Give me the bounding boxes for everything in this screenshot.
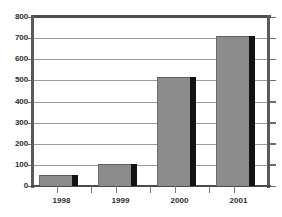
x-axis-tick-label: 1999 <box>97 196 145 205</box>
right-axis-tick <box>269 59 276 61</box>
bar-2001 <box>216 36 255 186</box>
y-axis-spine <box>31 15 34 188</box>
bar-1999 <box>98 164 137 186</box>
y-axis-labels: 8007006005004003002001000 <box>0 0 28 217</box>
x-axis-tick <box>234 186 235 193</box>
x-axis-tick-label: 2000 <box>156 196 204 205</box>
y-axis-tick-label: 0 <box>2 182 28 190</box>
y-axis-tick-label: 800 <box>2 13 28 21</box>
right-axis-tick <box>269 143 276 145</box>
right-axis-tick <box>269 122 276 124</box>
bar-shadow <box>249 36 255 186</box>
x-axis-boundary-tick <box>91 186 92 193</box>
y-axis-tick-label: 300 <box>2 119 28 127</box>
x-axis-tick-label: 2001 <box>215 196 263 205</box>
bar-shadow <box>72 175 78 186</box>
y-axis-tick-label: 100 <box>2 161 28 169</box>
right-axis-spine <box>267 15 270 188</box>
y-axis-tick-label: 400 <box>2 98 28 106</box>
clipped-chart-title <box>104 0 276 2</box>
right-axis-tick <box>269 101 276 103</box>
x-axis-tick-label: 1998 <box>38 196 86 205</box>
right-axis-tick <box>269 80 276 82</box>
y-axis-tick-label: 200 <box>2 140 28 148</box>
right-axis-tick <box>269 164 276 166</box>
right-axis-tick <box>269 38 276 40</box>
axis-top-rule <box>32 15 271 18</box>
y-axis-tick-label: 500 <box>2 76 28 84</box>
bar-2000 <box>157 77 196 186</box>
x-axis-tick <box>116 186 117 193</box>
bar-shadow <box>131 164 137 186</box>
x-axis-tick <box>175 186 176 193</box>
y-axis-tick-label: 600 <box>2 55 28 63</box>
y-axis-tick-label: 700 <box>2 34 28 42</box>
x-axis-tick <box>57 186 58 193</box>
bar-shadow <box>190 77 196 186</box>
x-axis-boundary-tick <box>209 186 210 193</box>
bar-1998 <box>39 175 78 186</box>
x-axis-boundary-tick <box>150 186 151 193</box>
bar-chart: 8007006005004003002001000 19981999200020… <box>0 0 282 217</box>
